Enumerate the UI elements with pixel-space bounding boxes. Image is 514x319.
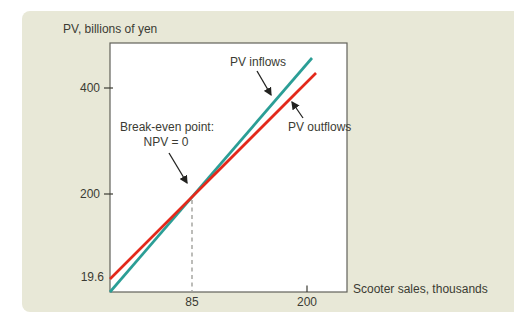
- y-axis-title: PV, billions of yen: [63, 22, 157, 36]
- x-tick-label-200: 200: [297, 295, 317, 309]
- x-axis-title: Scooter sales, thousands: [353, 282, 488, 296]
- break-even-chart: PV, billions of yen Scooter sales, thous…: [0, 0, 514, 319]
- pv-outflows-label: PV outflows: [288, 120, 351, 134]
- y-tick-label-400: 400: [80, 81, 100, 95]
- y-tick-label-200: 200: [80, 187, 100, 201]
- x-tick-label-85: 85: [185, 295, 199, 309]
- y-tick-label-19-6: 19.6: [81, 270, 105, 284]
- page-background: PV, billions of yen Scooter sales, thous…: [0, 0, 514, 319]
- break-even-label-line1: Break-even point:: [120, 120, 214, 134]
- break-even-label-line2: NPV = 0: [143, 135, 188, 149]
- plot-area: [110, 43, 347, 292]
- pv-inflows-label: PV inflows: [230, 55, 286, 69]
